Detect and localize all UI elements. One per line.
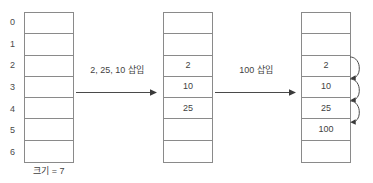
array-cell — [302, 34, 350, 55]
array-cell — [25, 98, 73, 119]
array-insertion-diagram: 0123456 21025 21025100 크기 = 7 2, 25, 10 … — [0, 0, 373, 183]
array-index-label: 3 — [4, 77, 21, 99]
array-index-label: 0 — [4, 12, 21, 34]
cut-off-text-strip — [0, 0, 373, 7]
array-cell: 100 — [302, 119, 350, 140]
array-after-second-insertion: 21025100 — [301, 12, 351, 163]
array-cell — [164, 119, 212, 140]
array-cell: 10 — [164, 77, 212, 98]
curved-arrow-group-icon — [348, 53, 373, 145]
array-cell — [302, 13, 350, 34]
array-cell — [302, 141, 350, 162]
array-cell — [164, 141, 212, 162]
array-index-label: 2 — [4, 55, 21, 77]
array-index-label: 5 — [4, 120, 21, 142]
array-cell — [25, 141, 73, 162]
array-index-label: 4 — [4, 98, 21, 120]
array-cell — [25, 34, 73, 55]
array-cell: 10 — [302, 77, 350, 98]
arrow-right-icon — [215, 86, 297, 98]
array-cell: 2 — [164, 56, 212, 77]
probe-chain-arrows — [348, 53, 373, 145]
transition-label-first: 2, 25, 10 삽입 — [76, 64, 158, 76]
array-cell — [25, 77, 73, 98]
array-index-gutter: 0123456 — [4, 12, 21, 163]
arrow-right-icon — [76, 86, 158, 98]
array-index-label: 6 — [4, 141, 21, 163]
array-cell: 25 — [164, 98, 212, 119]
transition-arrow-second: 100 삽입 — [215, 64, 297, 98]
array-cell — [25, 119, 73, 140]
array-cell — [164, 13, 212, 34]
array-cell — [164, 34, 212, 55]
transition-arrow-first: 2, 25, 10 삽입 — [76, 64, 158, 98]
array-size-caption: 크기 = 7 — [24, 166, 74, 177]
array-initial — [24, 12, 74, 163]
array-cell: 25 — [302, 98, 350, 119]
array-cell — [25, 13, 73, 34]
array-cell: 2 — [302, 56, 350, 77]
array-cell — [25, 56, 73, 77]
array-index-label: 1 — [4, 34, 21, 56]
transition-label-second: 100 삽입 — [215, 64, 297, 76]
array-after-first-insertion: 21025 — [163, 12, 213, 163]
